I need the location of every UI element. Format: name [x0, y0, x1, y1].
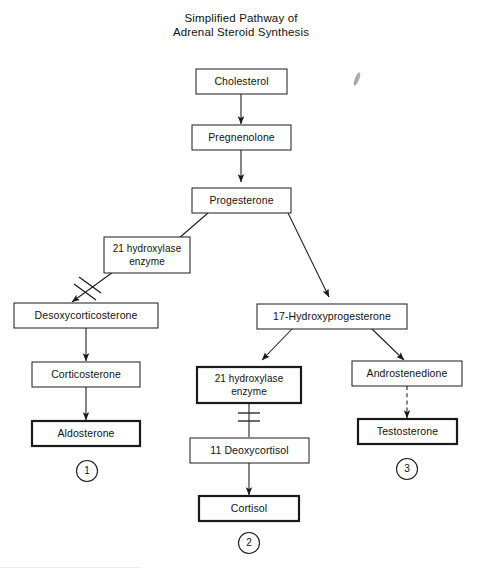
node-aldosterone: Aldosterone [32, 421, 140, 446]
node-testosterone: Testosterone [358, 419, 457, 444]
marker-three: 3 [397, 459, 418, 480]
marker-two-label: 2 [246, 537, 252, 548]
edge-hydroxyprogesterone-androstenedione [372, 329, 404, 360]
node-corticosterone: Corticosterone [32, 362, 140, 387]
node-pregnenolone: Pregnenolone [192, 125, 291, 150]
node-hydroxyprogesterone-label: 17-Hydroxyprogesterone [273, 310, 391, 322]
marker-one-label: 1 [84, 465, 90, 476]
marker-two: 2 [239, 533, 260, 554]
node-pregnenolone-label: Pregnenolone [208, 131, 275, 143]
node-enzyme-mid: 21 hydroxylase enzyme [197, 367, 301, 403]
node-cholesterol: Cholesterol [196, 69, 287, 94]
node-testosterone-label: Testosterone [377, 425, 438, 437]
node-enzyme-mid-label-line1: 21 hydroxylase [215, 373, 284, 384]
node-enzyme-left: 21 hydroxylase enzyme [104, 237, 190, 273]
node-deoxycortisol: 11 Deoxycortisol [190, 438, 309, 463]
node-hydroxyprogesterone: 17-Hydroxyprogesterone [257, 304, 407, 329]
marker-one: 1 [77, 461, 98, 482]
edge-progesterone-hydroxyprogesterone [288, 213, 329, 297]
node-enzyme-mid-label-line2: enzyme [231, 386, 267, 397]
node-corticosterone-label: Corticosterone [51, 368, 121, 380]
node-aldosterone-label: Aldosterone [57, 427, 114, 439]
edge-progesterone-left-enzyme [178, 213, 208, 239]
marker-three-label: 3 [404, 463, 410, 474]
edge-hydroxyprogesterone-mid-enzyme [262, 329, 292, 360]
diagram-title-line1: Simplified Pathway of [184, 12, 298, 24]
pathway-diagram: Simplified Pathway of Adrenal Steroid Sy… [0, 0, 481, 568]
node-progesterone: Progesterone [192, 188, 291, 213]
node-enzyme-left-label-line1: 21 hydroxylase [113, 243, 182, 254]
node-cholesterol-label: Cholesterol [214, 75, 268, 87]
node-deoxycortisol-label: 11 Deoxycortisol [210, 444, 288, 456]
pathway-svg: Simplified Pathway of Adrenal Steroid Sy… [0, 0, 481, 568]
diagram-title-line2: Adrenal Steroid Synthesis [173, 26, 309, 38]
node-androstenedione: Androstenedione [352, 361, 462, 386]
node-cortisol-label: Cortisol [231, 502, 267, 514]
node-desoxycorticosterone-label: Desoxycorticosterone [35, 309, 138, 321]
caption-sliver: ........................................… [0, 559, 481, 568]
scan-speck [352, 72, 361, 87]
node-enzyme-left-label-line2: enzyme [129, 256, 165, 267]
node-progesterone-label: Progesterone [209, 194, 273, 206]
node-cortisol: Cortisol [199, 496, 299, 521]
node-desoxycorticosterone: Desoxycorticosterone [14, 303, 158, 328]
node-androstenedione-label: Androstenedione [367, 367, 448, 379]
